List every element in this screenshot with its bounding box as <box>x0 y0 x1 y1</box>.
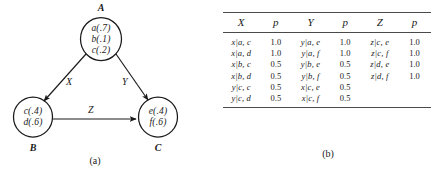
cell-y-expr: y|a, e <box>292 33 328 48</box>
table-row: y|c, c 0.5 x|c, e 0.5 <box>223 81 431 92</box>
edge-label-y: Y <box>122 76 128 87</box>
probability-table: X p Y p Z p x|a, c 1.0 y|a, e 1.0 z|c, e… <box>223 12 431 108</box>
header-p2: p <box>329 13 362 33</box>
table-row: x|a, c 1.0 y|a, e 1.0 z|c, e 1.0 <box>223 33 431 48</box>
header-p3: p <box>398 13 431 33</box>
header-y: Y <box>292 13 328 33</box>
node-b-entry-1: d(.6) <box>13 117 53 128</box>
node-c-entry-1: f(.6) <box>138 117 178 128</box>
header-z: Z <box>362 13 398 33</box>
node-a-entry-0: a(.7) <box>81 23 121 34</box>
table-header: X p Y p Z p <box>223 13 431 33</box>
table-body: x|a, c 1.0 y|a, e 1.0 z|c, e 1.0 x|a, d … <box>223 33 431 108</box>
table-row: y|c, d 0.5 x|c, f 0.5 <box>223 92 431 107</box>
panel-b-caption: (b) <box>298 148 358 159</box>
cell-z-p: 1.0 <box>398 70 431 81</box>
cell-z-expr: z|d, e <box>362 59 398 70</box>
table-row: x|a, d 1.0 y|a, f 1.0 z|c, f 1.0 <box>223 48 431 59</box>
cell-y-p: 0.5 <box>329 92 362 107</box>
cell-z-expr <box>362 81 398 92</box>
table-row: x|b, d 0.5 y|b, f 0.5 z|d, f 1.0 <box>223 70 431 81</box>
cell-z-expr: z|c, f <box>362 48 398 59</box>
cell-y-p: 0.5 <box>329 81 362 92</box>
node-b-label: B <box>13 142 53 153</box>
header-p1: p <box>259 13 292 33</box>
node-b-entry-0: c(.4) <box>13 106 53 117</box>
cell-z-expr: z|d, f <box>362 70 398 81</box>
cell-y-p: 1.0 <box>329 48 362 59</box>
cell-x-p: 0.5 <box>259 81 292 92</box>
node-b-entries: c(.4) d(.6) <box>13 106 53 128</box>
cell-y-p: 0.5 <box>329 70 362 81</box>
cell-z-p <box>398 81 431 92</box>
cell-z-p: 1.0 <box>398 33 431 48</box>
cell-y-expr: x|c, e <box>292 81 328 92</box>
node-a-label: A <box>81 2 121 13</box>
cell-y-expr: y|b, e <box>292 59 328 70</box>
edge-a-to-c <box>116 54 148 100</box>
cell-y-p: 0.5 <box>329 59 362 70</box>
cell-z-p: 1.0 <box>398 59 431 70</box>
cell-x-p: 0.5 <box>259 70 292 81</box>
cell-z-p <box>398 92 431 107</box>
panel-b-table: X p Y p Z p x|a, c 1.0 y|a, e 1.0 z|c, e… <box>215 0 441 171</box>
cell-x-expr: x|a, d <box>223 48 259 59</box>
node-a-entries: a(.7) b(.1) c(.2) <box>81 23 121 56</box>
panel-a-graph: a(.7) b(.1) c(.2) A c(.4) d(.6) B e(.4) … <box>0 0 215 171</box>
node-c-entries: e(.4) f(.6) <box>138 106 178 128</box>
node-c-label: C <box>138 142 178 153</box>
node-a-entry-1: b(.1) <box>81 34 121 45</box>
cell-x-p: 0.5 <box>259 92 292 107</box>
cell-y-expr: y|a, f <box>292 48 328 59</box>
cell-z-p: 1.0 <box>398 48 431 59</box>
cell-y-expr: y|b, f <box>292 70 328 81</box>
edge-label-z: Z <box>88 104 94 115</box>
cell-z-expr <box>362 92 398 107</box>
cell-x-p: 1.0 <box>259 33 292 48</box>
edge-a-to-b <box>44 54 86 101</box>
panel-a-caption: (a) <box>65 155 125 166</box>
cell-x-expr: x|a, c <box>223 33 259 48</box>
cell-x-expr: y|c, c <box>223 81 259 92</box>
cell-x-expr: y|c, d <box>223 92 259 107</box>
table-row: x|b, c 0.5 y|b, e 0.5 z|d, e 1.0 <box>223 59 431 70</box>
cell-y-p: 1.0 <box>329 33 362 48</box>
cell-x-expr: x|b, d <box>223 70 259 81</box>
node-a-entry-2: c(.2) <box>81 45 121 56</box>
table-header-row: X p Y p Z p <box>223 13 431 33</box>
cell-x-p: 0.5 <box>259 59 292 70</box>
node-c-entry-0: e(.4) <box>138 106 178 117</box>
cell-y-expr: x|c, f <box>292 92 328 107</box>
cell-x-p: 1.0 <box>259 48 292 59</box>
edge-label-x: X <box>66 76 72 87</box>
figure-container: a(.7) b(.1) c(.2) A c(.4) d(.6) B e(.4) … <box>0 0 441 171</box>
header-x: X <box>223 13 259 33</box>
cell-z-expr: z|c, e <box>362 33 398 48</box>
cell-x-expr: x|b, c <box>223 59 259 70</box>
